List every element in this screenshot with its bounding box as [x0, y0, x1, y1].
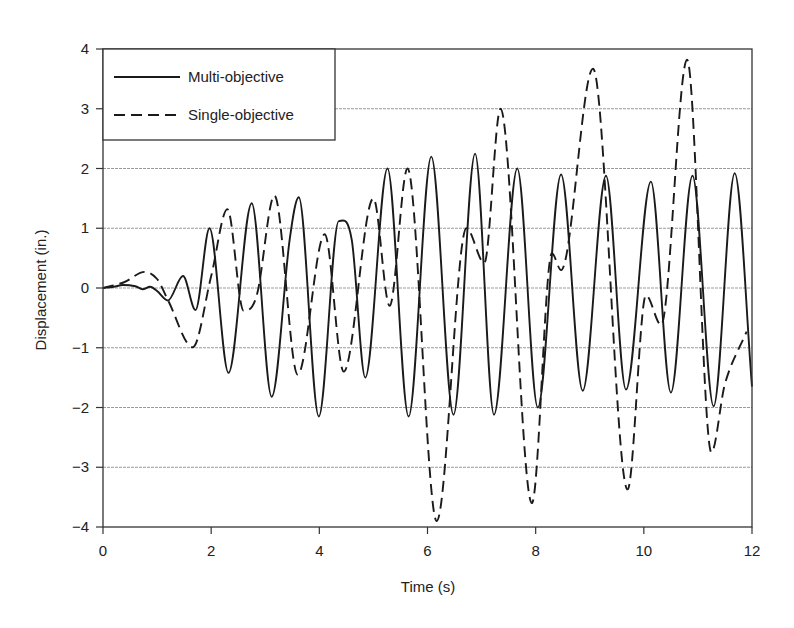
y-tick-label: −1 — [72, 339, 89, 356]
legend-box — [103, 49, 335, 140]
x-tick-label: 0 — [99, 542, 107, 559]
x-tick-label: 2 — [207, 542, 215, 559]
legend: Multi-objective Single-objective — [103, 49, 335, 140]
y-tick-label: 3 — [81, 100, 89, 117]
y-axis-label: Displacement (in.) — [32, 230, 49, 351]
x-tick-label: 10 — [635, 542, 652, 559]
y-tick-label: 1 — [81, 219, 89, 236]
y-tick-label: −2 — [72, 399, 89, 416]
y-tick-label: 2 — [81, 160, 89, 177]
y-tick-label: 0 — [81, 279, 89, 296]
series-multi-objective — [103, 154, 752, 417]
y-tick-label: 4 — [81, 40, 89, 57]
y-tick-label: −4 — [72, 518, 89, 535]
x-tick-label: 12 — [744, 542, 761, 559]
x-tick-label: 8 — [531, 542, 539, 559]
legend-label-single-objective: Single-objective — [188, 106, 294, 123]
x-axis-label: Time (s) — [401, 578, 455, 595]
x-tick-label: 4 — [315, 542, 323, 559]
y-tick-label: −3 — [72, 458, 89, 475]
displacement-chart: 43210−1−2−3−4024681012 Multi-objective S… — [0, 0, 794, 628]
x-tick-label: 6 — [423, 542, 431, 559]
legend-label-multi-objective: Multi-objective — [188, 68, 284, 85]
